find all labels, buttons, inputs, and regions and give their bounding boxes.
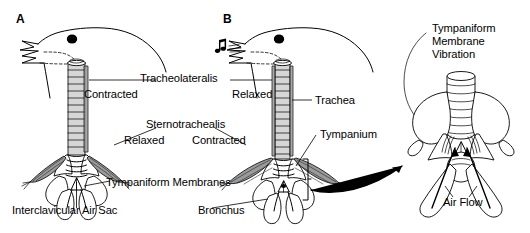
vibration-line-3: Vibration (432, 48, 475, 60)
label-contracted-b: Contracted (192, 134, 246, 147)
curved-arrow-icon (303, 159, 402, 200)
panel-letter-a: A (16, 12, 25, 26)
bird-eye-icon-b (274, 34, 284, 43)
label-relaxed-b: Relaxed (232, 88, 272, 101)
label-relaxed-a: Relaxed (124, 134, 164, 147)
panel-b-artwork (215, 28, 373, 224)
panel-letter-b: B (223, 12, 232, 26)
label-tympanium: Tympanium (320, 128, 377, 141)
vibration-line-2: Membrane (432, 35, 485, 47)
vibration-line-1: Tympaniform (432, 22, 496, 34)
label-tracheolateralis: Tracheolateralis (140, 72, 218, 85)
label-contracted-a: Contracted (84, 88, 138, 101)
bird-eye-icon (67, 34, 77, 43)
label-tympaniform-membrane-vibration: Tympaniform Membrane Vibration (432, 22, 528, 62)
label-trachea: Trachea (315, 94, 355, 107)
panel-a-artwork (20, 28, 166, 220)
label-air-flow: Air Flow (443, 196, 483, 209)
label-interclavicular-air-sac: Interclavicular Air Sac (12, 204, 117, 217)
label-tympaniform-membranes: Tympaniform Membranes (106, 176, 231, 189)
music-note-icon (215, 39, 226, 53)
label-sternotrachealis: Sternotrachealis (146, 118, 225, 131)
syrinx-figure: A B Tracheolateralis Contracted Relaxed … (0, 0, 530, 233)
label-bronchus: Bronchus (198, 204, 244, 217)
